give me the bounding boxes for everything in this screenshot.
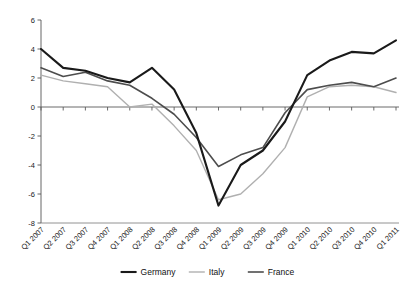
line-chart: 6420-2-4-6-8 Q1 2007Q2 2007Q3 2007Q4 200… [0, 0, 416, 288]
chart-container: 6420-2-4-6-8 Q1 2007Q2 2007Q3 2007Q4 200… [0, 0, 416, 288]
legend-label-italy: Italy [209, 267, 225, 277]
y-axis-tick-label: 6 [31, 16, 35, 25]
y-axis-tick-label: 0 [31, 103, 35, 112]
y-axis-tick-label: -2 [28, 132, 35, 141]
y-axis-tick-label: -6 [28, 190, 35, 199]
y-axis-tick-label: -8 [28, 219, 35, 228]
y-axis-tick-label: 4 [31, 45, 35, 54]
y-axis-tick-label: -4 [28, 161, 35, 170]
y-axis-tick-label: 2 [31, 74, 35, 83]
legend-label-germany: Germany [141, 267, 177, 277]
legend-label-france: France [268, 267, 295, 277]
